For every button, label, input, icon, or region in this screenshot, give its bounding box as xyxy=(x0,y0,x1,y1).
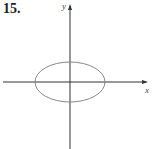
y-axis-arrow-icon xyxy=(68,4,72,10)
x-axis-arrow-icon xyxy=(142,80,148,84)
x-axis-label: x xyxy=(144,85,149,95)
ellipse-graph: x y xyxy=(0,0,163,149)
y-axis-label: y xyxy=(61,1,66,11)
